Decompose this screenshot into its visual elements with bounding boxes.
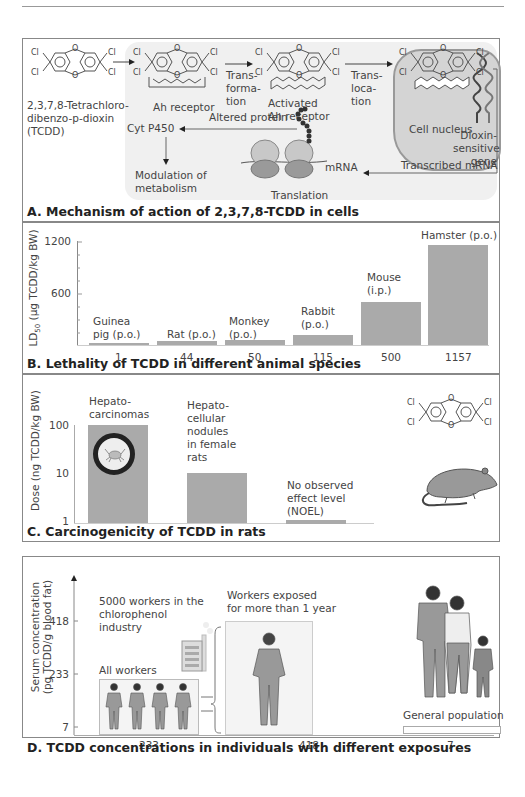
svg-text:Cl: Cl	[108, 68, 116, 77]
tcdd-molecule-icon: ClClClCl OO	[29, 45, 121, 85]
general-population-label: General population	[403, 709, 504, 722]
svg-text:Cl: Cl	[108, 48, 116, 57]
svg-text:O: O	[448, 421, 454, 430]
svg-text:Cl: Cl	[484, 398, 492, 407]
workers-group-icon	[103, 681, 197, 733]
bar-guinea-pig	[89, 343, 149, 345]
svg-text:O: O	[174, 71, 180, 80]
ytick-100: 100	[43, 419, 69, 431]
arrow-right-icon	[225, 61, 253, 67]
ytick-7: 7	[43, 721, 69, 733]
y-axis	[74, 425, 75, 523]
general-population-bar	[403, 726, 501, 734]
panel-b-title: B. Lethality of TCDD in different animal…	[27, 356, 361, 371]
panel-d-title: D. TCDD concentrations in individuals wi…	[27, 740, 471, 755]
label-hepatocellular-nodules: Hepato-cellularnodulesin femalerats	[187, 399, 236, 464]
cyt-p450-label: Cyt P450	[127, 122, 174, 135]
all-workers-label: All workers	[99, 664, 157, 677]
bar-rabbit	[293, 335, 353, 345]
altered-protein-arrow-icon	[179, 126, 297, 132]
bar-hamster	[428, 245, 488, 345]
modulation-label: Modulation of metabolism	[135, 169, 207, 195]
panel-c-title: C. Carcinogenicity of TCDD in rats	[27, 524, 266, 539]
svg-text:Cl: Cl	[399, 48, 407, 57]
bar-rat	[157, 341, 217, 345]
arrow-down-icon	[163, 137, 169, 165]
svg-text:Cl: Cl	[31, 68, 39, 77]
panel-b-ylabel: LD50 (µg TCDD/kg BW)	[27, 223, 42, 353]
svg-text:Cl: Cl	[133, 68, 141, 77]
protein-chain-icon	[295, 107, 319, 147]
group2-caption: Workers exposed for more than 1 year	[227, 589, 336, 615]
value-mouse: 500	[381, 351, 401, 364]
tcdd-label: 2,3,7,8-Tetrachloro- dibenzo-p-dioxin (T…	[27, 99, 129, 138]
svg-text:Cl: Cl	[255, 48, 263, 57]
svg-text:O: O	[72, 44, 78, 53]
activated-ah-receptor-icon: ClClClCl OO	[253, 45, 345, 95]
ah-receptor-label: Ah receptor	[153, 101, 214, 114]
mrna-label: mRNA	[325, 161, 358, 174]
label-mouse: Mouse(i.p.)	[367, 271, 401, 297]
panel-a-title: A. Mechanism of action of 2,3,7,8-TCDD i…	[27, 204, 359, 219]
y-axis-arrow-icon	[69, 575, 79, 735]
ytick-233: 233	[43, 668, 69, 680]
panel-d: Serum concentration (pg TCDD/g blood fat…	[22, 556, 500, 738]
svg-text:Cl: Cl	[484, 418, 492, 427]
family-icon	[413, 585, 497, 705]
arrow-right-icon	[345, 61, 393, 67]
ytick-600: 600	[41, 287, 71, 299]
value-hamster: 1157	[445, 351, 472, 364]
label-guinea-pig: Guineapig (p.o.)	[93, 315, 140, 341]
page-header-rule	[22, 6, 504, 7]
tcdd-molecule-icon: ClClClCl OO	[405, 395, 497, 435]
tcdd-ah-receptor-icon: ClClClCl OO	[131, 45, 223, 95]
label-rat: Rat (p.o.)	[167, 328, 216, 341]
ytick-1200: 1200	[41, 235, 71, 247]
svg-text:Cl: Cl	[332, 48, 340, 57]
x-axis	[74, 735, 494, 736]
svg-text:O: O	[296, 71, 302, 80]
ytick-418: 418	[43, 615, 69, 627]
svg-text:O: O	[448, 394, 454, 403]
panel-c: Dose (ng TCDD/kg BW) 100 10 1 Hepato-car…	[22, 374, 500, 542]
svg-text:Cl: Cl	[407, 398, 415, 407]
label-hamster: Hamster (p.o.)	[421, 229, 497, 242]
transcribed-mrna-label: Transcribed mRNA	[401, 159, 497, 172]
svg-text:Cl: Cl	[255, 68, 263, 77]
svg-text:Cl: Cl	[407, 418, 415, 427]
bar-mouse	[361, 302, 421, 345]
x-axis	[77, 345, 489, 346]
svg-text:Cl: Cl	[31, 48, 39, 57]
ytick-10: 10	[43, 467, 69, 479]
svg-text:O: O	[440, 44, 446, 53]
svg-text:Cl: Cl	[210, 68, 218, 77]
svg-text:Cl: Cl	[332, 68, 340, 77]
altered-protein-label: Altered protein	[209, 111, 288, 124]
translation-label: Translation	[271, 189, 328, 202]
label-hepatocarcinomas: Hepato-carcinomas	[89, 395, 149, 421]
label-noel: No observedeffect level(NOEL)	[287, 479, 353, 518]
panel-b: LD50 (µg TCDD/kg BW) 1200 600 Guineapig …	[22, 222, 500, 374]
cancer-crab-icon	[93, 433, 135, 475]
panel-c-ylabel: Dose (ng TCDD/kg BW)	[29, 391, 41, 511]
worker-icon	[251, 631, 287, 729]
label-monkey: Monkey(p.o.)	[229, 315, 270, 341]
svg-text:O: O	[296, 44, 302, 53]
svg-text:O: O	[174, 44, 180, 53]
svg-text:Cl: Cl	[210, 48, 218, 57]
y-axis-ticks	[77, 241, 83, 345]
panel-a: ClClClCl OO 2,3,7,8-Tetrachloro- dibenzo…	[22, 38, 500, 222]
rat-icon	[417, 461, 501, 509]
bar-hepatocellular-nodules	[187, 473, 247, 523]
svg-text:Cl: Cl	[133, 48, 141, 57]
bar-noel	[286, 520, 346, 524]
svg-text:O: O	[72, 71, 78, 80]
label-rabbit: Rabbit(p.o.)	[301, 305, 335, 331]
